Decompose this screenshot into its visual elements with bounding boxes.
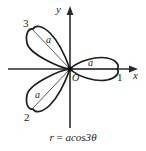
caption-equals: = (54, 131, 66, 143)
radius-label-upper-left: a (46, 35, 51, 45)
origin-point (67, 66, 72, 71)
caption-theta: θ (91, 131, 96, 143)
caption-cos-term: cos3 (71, 131, 91, 143)
origin-label: O (72, 73, 79, 83)
polar-rose-figure: x y O 1 2 3 a a a r = acos3θ (0, 0, 146, 151)
radius-label-right: a (88, 58, 93, 68)
petal-label-1: 1 (117, 72, 123, 83)
y-axis-label: y (56, 4, 61, 15)
petal-label-2: 2 (24, 112, 30, 123)
rose-curve-plot (0, 0, 146, 131)
figure-caption: r = acos3θ (0, 131, 146, 143)
radius-label-lower-left: a (35, 90, 40, 100)
petal-label-3: 3 (23, 18, 29, 29)
x-axis-label: x (133, 70, 138, 81)
